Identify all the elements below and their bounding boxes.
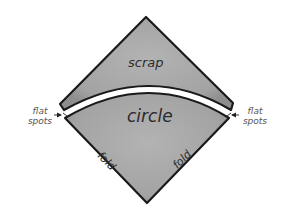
flat-spot-left-mark bbox=[63, 113, 67, 116]
arrow-left-icon bbox=[54, 113, 62, 118]
flat-spot-right-mark bbox=[227, 113, 231, 116]
scrap-label: scrap bbox=[128, 56, 163, 69]
flat-spots-left-label: flat spots bbox=[26, 106, 54, 126]
flat-spots-right-label: flat spots bbox=[241, 106, 269, 126]
arrow-right-icon bbox=[231, 113, 239, 118]
circle-label: circle bbox=[127, 108, 173, 125]
diagram: scrap circle fold fold flat spots flat s… bbox=[0, 0, 283, 219]
